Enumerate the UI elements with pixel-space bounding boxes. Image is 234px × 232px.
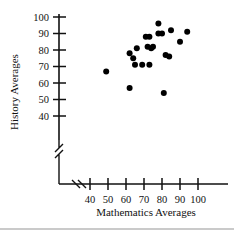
data-point [146, 62, 152, 68]
x-tick-label-70: 70 [139, 194, 150, 205]
y-tick-label-40: 40 [39, 111, 50, 122]
data-point [166, 54, 172, 60]
y-axis: 405060708090100 [33, 12, 66, 184]
data-point [168, 27, 174, 33]
data-points-layer [103, 21, 190, 96]
y-tick-label-60: 60 [39, 78, 50, 89]
data-point [127, 50, 133, 56]
x-tick-label-80: 80 [157, 194, 168, 205]
data-point [127, 85, 133, 91]
scatter-plot-figure: 405060708090100 405060708090100 History … [0, 0, 234, 232]
x-tick-label-90: 90 [175, 194, 186, 205]
y-tick-label-50: 50 [39, 94, 50, 105]
y-axis-title: History Averages [8, 54, 20, 130]
data-point [177, 39, 183, 45]
y-tick-label-70: 70 [39, 61, 50, 72]
data-point [150, 44, 156, 50]
y-axis-break-marker [55, 140, 63, 184]
x-axis-title: Mathematics Averages [96, 206, 196, 218]
data-point [155, 21, 161, 27]
y-tick-label-100: 100 [33, 12, 49, 23]
x-tick-labels: 405060708090100 [85, 194, 206, 205]
data-point [159, 31, 165, 37]
y-tick-label-90: 90 [39, 28, 50, 39]
data-point [134, 45, 140, 51]
x-tick-label-50: 50 [103, 194, 114, 205]
x-axis: 405060708090100 [59, 178, 228, 205]
data-point [103, 68, 109, 74]
y-tick-labels: 405060708090100 [33, 12, 49, 122]
data-point [132, 62, 138, 68]
data-point [139, 62, 145, 68]
x-tick-label-100: 100 [190, 194, 206, 205]
data-point [146, 34, 152, 40]
plot-canvas: 405060708090100 405060708090100 History … [0, 0, 234, 232]
x-tick-label-60: 60 [121, 194, 132, 205]
data-point [130, 55, 136, 61]
data-point [161, 90, 167, 96]
data-point [184, 29, 190, 35]
x-tick-label-40: 40 [85, 194, 96, 205]
y-tick-label-80: 80 [39, 45, 50, 56]
